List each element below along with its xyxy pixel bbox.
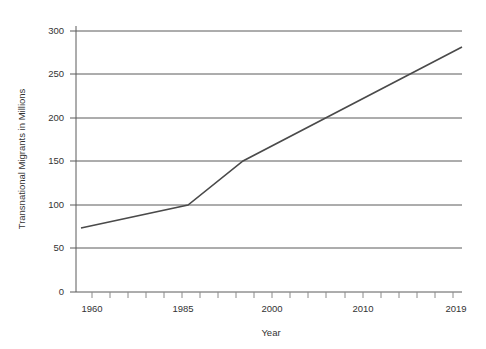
x-tick-label-2000: 2000: [261, 303, 282, 314]
gridlines: [76, 31, 462, 248]
y-tick-label-300: 300: [48, 25, 64, 36]
x-axis-title: Year: [261, 327, 280, 338]
x-tick-label-2010: 2010: [352, 303, 373, 314]
line-chart: 300 250 200 150 100 50 0 1960 1985 2000 …: [0, 0, 486, 349]
y-tick-label-200: 200: [48, 112, 64, 123]
x-tick-label-2019: 2019: [445, 303, 466, 314]
x-tick-label-1985: 1985: [172, 303, 193, 314]
x-tick-label-1960: 1960: [81, 303, 102, 314]
y-axis-title: Transnational Migrants in Millions: [16, 88, 27, 229]
chart-canvas: 300 250 200 150 100 50 0 1960 1985 2000 …: [0, 0, 486, 349]
y-tick-label-100: 100: [48, 199, 64, 210]
y-axis-ticks: [70, 31, 76, 292]
y-tick-label-150: 150: [48, 155, 64, 166]
y-tick-label-0: 0: [59, 286, 64, 297]
x-axis-ticks: [92, 292, 453, 298]
y-tick-label-50: 50: [53, 242, 64, 253]
y-tick-label-250: 250: [48, 68, 64, 79]
